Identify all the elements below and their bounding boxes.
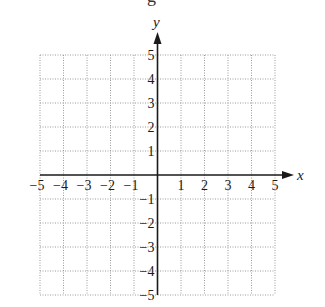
x-tick-label: −3 <box>77 178 92 193</box>
x-tick-label: 4 <box>248 178 255 193</box>
x-axis-label: x <box>296 167 304 183</box>
coordinate-plane: −5−4−3−2−112345 54321−1−2−3−4−5 x y <box>0 0 325 307</box>
x-tick-label: 2 <box>201 178 208 193</box>
y-tick-label: −1 <box>140 192 155 207</box>
y-tick-label: −4 <box>140 264 155 279</box>
y-tick-label: 3 <box>148 96 155 111</box>
x-tick-label: 5 <box>272 178 279 193</box>
y-tick-label: 5 <box>148 48 155 63</box>
x-tick-labels: −5−4−3−2−112345 <box>30 178 279 193</box>
y-tick-label: 4 <box>148 72 155 87</box>
y-tick-label: −5 <box>140 288 155 303</box>
y-tick-label: −3 <box>140 240 155 255</box>
x-tick-label: 1 <box>178 178 185 193</box>
y-tick-label: 1 <box>148 144 155 159</box>
x-axis-arrow-icon <box>282 171 294 179</box>
y-tick-label: −2 <box>140 216 155 231</box>
x-tick-label: −5 <box>30 178 45 193</box>
axes <box>40 32 294 295</box>
y-axis-label: y <box>151 14 160 30</box>
x-tick-label: 3 <box>225 178 232 193</box>
y-tick-label: 2 <box>148 120 155 135</box>
x-tick-label: −2 <box>100 178 115 193</box>
x-tick-label: −1 <box>124 178 139 193</box>
x-tick-label: −4 <box>53 178 68 193</box>
y-axis-arrow-icon <box>154 32 162 44</box>
